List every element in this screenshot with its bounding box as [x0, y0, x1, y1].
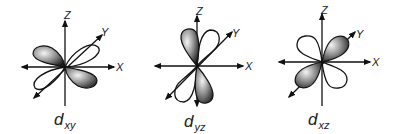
shaded-lobe — [65, 67, 97, 88]
x-axis-label: X — [371, 56, 380, 68]
shaded-lobe — [295, 62, 322, 88]
x-axis-label: X — [115, 61, 124, 73]
y-axis-label: Y — [101, 26, 109, 38]
open-lobe — [34, 67, 65, 89]
orbital-letter: d — [184, 112, 193, 131]
z-axis-label: Z — [63, 9, 72, 21]
orbital-letter: d — [54, 110, 63, 129]
orbital-label-dyz: dyz — [184, 113, 205, 133]
shaded-lobe — [322, 36, 349, 62]
x-axis-label: X — [244, 60, 253, 72]
y-axis-label: Y — [232, 27, 240, 39]
y-axis-label: Y — [356, 28, 364, 40]
orbital-subscript: xz — [318, 119, 329, 131]
orbital-letter: d — [308, 110, 317, 129]
z-axis-label: Z — [320, 4, 329, 16]
orbital-subscript: yz — [194, 121, 205, 133]
shaded-lobe — [33, 46, 65, 67]
orbital-dyz: Z Y X — [155, 5, 253, 106]
orbital-subscript: xy — [64, 119, 75, 131]
shaded-lobe — [181, 29, 199, 66]
z-axis-label: Z — [195, 5, 204, 17]
shaded-lobe — [195, 66, 213, 103]
open-lobe — [297, 36, 322, 62]
orbital-dxz: Z Y X — [279, 4, 380, 106]
orbital-label-dxz: dxz — [308, 111, 329, 131]
open-lobe — [322, 62, 347, 88]
orbital-label-dxy: dxy — [54, 111, 75, 131]
orbital-dxy: Z Y X — [22, 9, 124, 106]
